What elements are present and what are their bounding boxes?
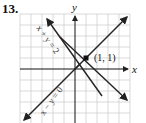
intersection-label: (1, 1) [94,52,116,64]
label-x-plus-y-equals-2: x + y = 2 [34,23,61,55]
coordinate-graph: x y (1, 1) x + y = 2 x − y = 0 [0,0,146,123]
y-axis-label: y [71,1,77,13]
x-axis-label: x [131,63,137,75]
intersection-point [84,56,89,61]
